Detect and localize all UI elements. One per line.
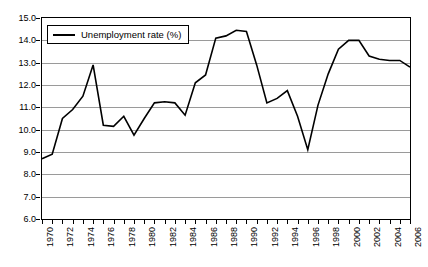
x-axis-tick-label: 1970	[46, 227, 55, 247]
x-axis-tick-label: 2006	[414, 227, 423, 247]
x-axis-tick-label: 1976	[107, 227, 116, 247]
x-axis-tick-mark	[369, 220, 370, 224]
x-axis-tick-mark	[134, 220, 135, 224]
x-axis-tick-mark	[62, 220, 63, 224]
series-line-unemployment-rate	[42, 30, 410, 158]
x-axis-tick-mark	[298, 220, 299, 224]
x-axis-tick-mark	[226, 220, 227, 224]
x-axis-tick-marks	[41, 220, 412, 226]
x-axis-tick-mark	[42, 220, 43, 224]
x-axis-tick-label: 1990	[250, 227, 259, 247]
data-series-layer	[42, 18, 410, 219]
x-axis-tick-label: 1994	[291, 227, 300, 247]
x-axis-tick-label: 1980	[148, 227, 157, 247]
y-axis-tick-mark	[36, 197, 40, 198]
x-axis-tick-label: 1998	[332, 227, 341, 247]
x-axis-tick-label: 1986	[210, 227, 219, 247]
x-axis-tick-label: 1992	[271, 227, 280, 247]
x-axis-tick-label: 2002	[373, 227, 382, 247]
y-axis-tick-mark	[36, 152, 40, 153]
chart-legend: Unemployment rate (%)	[47, 25, 189, 44]
x-axis-tick-mark	[114, 220, 115, 224]
x-axis-tick-label: 1996	[312, 227, 321, 247]
x-axis-tick-label: 1978	[128, 227, 137, 247]
x-axis-tick-mark	[144, 220, 145, 224]
x-axis-tick-mark	[236, 220, 237, 224]
y-axis-tick-marks	[0, 17, 41, 220]
y-axis-tick-mark	[36, 63, 40, 64]
x-axis-tick-label: 1972	[66, 227, 75, 247]
x-axis-tick-mark	[206, 220, 207, 224]
x-axis-tick-mark	[165, 220, 166, 224]
x-axis-tick-mark	[277, 220, 278, 224]
x-axis-tick-label: 1982	[169, 227, 178, 247]
x-axis-tick-mark	[308, 220, 309, 224]
x-axis-tick-mark	[400, 220, 401, 224]
x-axis-tick-mark	[379, 220, 380, 224]
x-axis-tick-mark	[175, 220, 176, 224]
y-axis-tick-mark	[36, 18, 40, 19]
x-axis-tick-mark	[185, 220, 186, 224]
x-axis-tick-mark	[359, 220, 360, 224]
x-axis-tick-mark	[52, 220, 53, 224]
x-axis-tick-label: 2004	[394, 227, 403, 247]
legend-line-swatch	[53, 34, 75, 36]
y-axis-tick-mark	[36, 85, 40, 86]
x-axis-tick-mark	[328, 220, 329, 224]
x-axis-tick-label: 1974	[87, 227, 96, 247]
y-axis-tick-mark	[36, 130, 40, 131]
x-axis-tick-mark	[338, 220, 339, 224]
x-axis-tick-labels: 1970197219741976197819801982198419861988…	[41, 227, 412, 267]
legend-label-unemployment-rate: Unemployment rate (%)	[81, 29, 181, 40]
x-axis-tick-label: 1988	[230, 227, 239, 247]
x-axis-tick-mark	[195, 220, 196, 224]
x-axis-tick-mark	[124, 220, 125, 224]
x-axis-tick-mark	[73, 220, 74, 224]
x-axis-tick-label: 2000	[353, 227, 362, 247]
y-axis-tick-mark	[36, 40, 40, 41]
x-axis-tick-mark	[257, 220, 258, 224]
plot-area	[41, 17, 411, 220]
y-axis-tick-mark	[36, 219, 40, 220]
x-axis-tick-mark	[287, 220, 288, 224]
x-axis-tick-mark	[267, 220, 268, 224]
x-axis-tick-label: 1984	[189, 227, 198, 247]
x-axis-tick-mark	[318, 220, 319, 224]
x-axis-tick-mark	[349, 220, 350, 224]
x-axis-tick-mark	[246, 220, 247, 224]
x-axis-tick-mark	[216, 220, 217, 224]
x-axis-tick-mark	[390, 220, 391, 224]
x-axis-tick-mark	[410, 220, 411, 224]
x-axis-tick-mark	[103, 220, 104, 224]
unemployment-rate-line-chart: 15.014.013.012.011.010.09.08.07.06.0 197…	[0, 0, 428, 267]
x-axis-tick-mark	[154, 220, 155, 224]
y-axis-tick-mark	[36, 107, 40, 108]
y-axis-tick-mark	[36, 174, 40, 175]
x-axis-tick-mark	[93, 220, 94, 224]
x-axis-tick-mark	[83, 220, 84, 224]
